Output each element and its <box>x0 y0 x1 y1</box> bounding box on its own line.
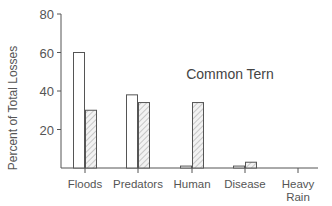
bar-open <box>74 53 85 169</box>
chart: 20406080 FloodsPredatorsHumanDiseaseHeav… <box>0 0 332 206</box>
y-tick-label: 60 <box>40 46 54 61</box>
bar-hatched <box>86 110 97 168</box>
y-axis-label: Percent of Total Losses <box>6 46 20 171</box>
x-category-label: Human <box>173 178 210 190</box>
bar-hatched <box>139 103 150 168</box>
bar-open <box>234 166 245 168</box>
y-tick-label: 40 <box>40 84 54 99</box>
bar-hatched <box>193 103 204 168</box>
bar-hatched <box>246 162 257 168</box>
y-tick-label: 80 <box>40 7 54 22</box>
bar-open <box>181 166 192 168</box>
y-axis: 20406080 <box>40 7 61 168</box>
y-tick-label: 20 <box>40 123 54 138</box>
x-category-label: Heavy <box>282 178 315 190</box>
x-category-label: Floods <box>68 178 103 190</box>
x-category-label: Predators <box>113 178 163 190</box>
x-axis: FloodsPredatorsHumanDiseaseHeavyRain <box>61 168 318 203</box>
x-category-label: Disease <box>224 178 266 190</box>
chart-title: Common Tern <box>186 66 274 82</box>
bar-open <box>127 95 138 168</box>
x-category-label: Rain <box>286 191 310 203</box>
